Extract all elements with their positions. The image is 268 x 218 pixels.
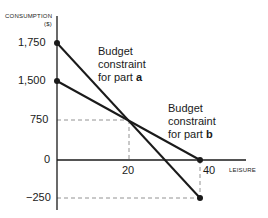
y-axis-unit: ($) — [44, 21, 52, 27]
annotation-part-a: Budget constraint for part a — [98, 45, 146, 84]
x-tick-40: 40 — [203, 164, 215, 176]
y-tick-1500: 1,500 — [18, 74, 46, 86]
x-tick-20: 20 — [122, 164, 134, 176]
y-tick-750: 750 — [30, 113, 48, 125]
x-axis-label: LEISURE — [229, 167, 256, 173]
chart-canvas — [0, 0, 268, 218]
y-tick-1750: 1,750 — [18, 36, 46, 48]
y-axis-label: CONSUMPTION — [5, 13, 52, 19]
y-tick-neg250: −250 — [26, 191, 51, 203]
annotation-part-b: Budget constraint for part b — [168, 102, 216, 141]
y-tick-0: 0 — [44, 153, 50, 165]
